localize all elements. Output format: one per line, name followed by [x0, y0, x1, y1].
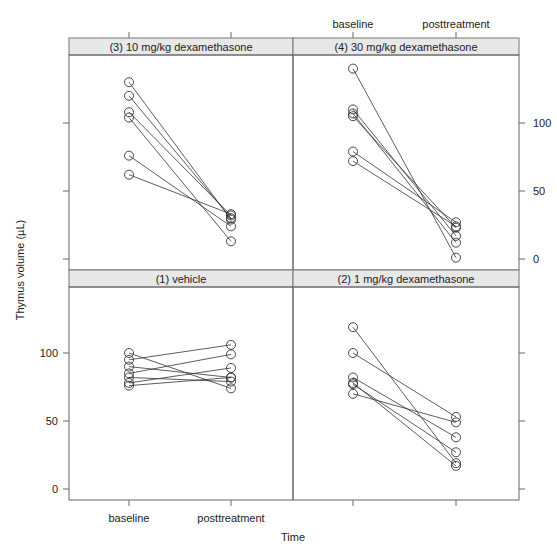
- x-axis-label: Time: [281, 531, 305, 543]
- panel-p1: (1) vehicle: [69, 270, 293, 500]
- y-tick-label: 0: [533, 253, 539, 265]
- subject-line: [353, 69, 456, 258]
- panel-p4: (4) 30 mg/kg dexamethasone: [293, 38, 519, 270]
- panel-p3: (3) 10 mg/kg dexamethasone: [69, 38, 293, 270]
- x-tick-label: posttreatment: [197, 512, 264, 524]
- subject-line: [353, 116, 456, 228]
- subject-line: [353, 161, 456, 226]
- y-tick-label: 0: [52, 483, 58, 495]
- subject-line: [353, 152, 456, 223]
- panel-frame: [69, 55, 293, 270]
- panel-title: (2) 1 mg/kg dexamethasone: [338, 273, 475, 285]
- panel-title: (3) 10 mg/kg dexamethasone: [109, 41, 252, 53]
- y-tick-label: 100: [40, 347, 58, 359]
- panel-frame: [293, 287, 519, 500]
- subject-line: [129, 367, 231, 378]
- panel-frame: [69, 287, 293, 500]
- y-tick-label: 100: [533, 117, 551, 129]
- panel-title: (1) vehicle: [156, 273, 207, 285]
- y-tick-label: 50: [46, 415, 58, 427]
- subject-line: [129, 118, 231, 242]
- subject-line: [129, 175, 231, 214]
- subject-line: [129, 112, 231, 215]
- x-tick-label-top: baseline: [333, 18, 374, 30]
- x-tick-label: baseline: [109, 512, 150, 524]
- panel-frame: [293, 55, 519, 270]
- subject-line: [129, 156, 231, 227]
- lattice-chart: (3) 10 mg/kg dexamethasone(4) 30 mg/kg d…: [0, 0, 557, 555]
- subject-line: [129, 377, 231, 385]
- panel-title: (4) 30 mg/kg dexamethasone: [334, 41, 477, 53]
- x-tick-label-top: posttreatment: [422, 18, 489, 30]
- panel-p2: (2) 1 mg/kg dexamethasone: [293, 270, 519, 500]
- subject-line: [129, 82, 231, 219]
- y-axis-label: Thymus volume (µL): [14, 220, 26, 320]
- y-tick-label: 50: [533, 185, 545, 197]
